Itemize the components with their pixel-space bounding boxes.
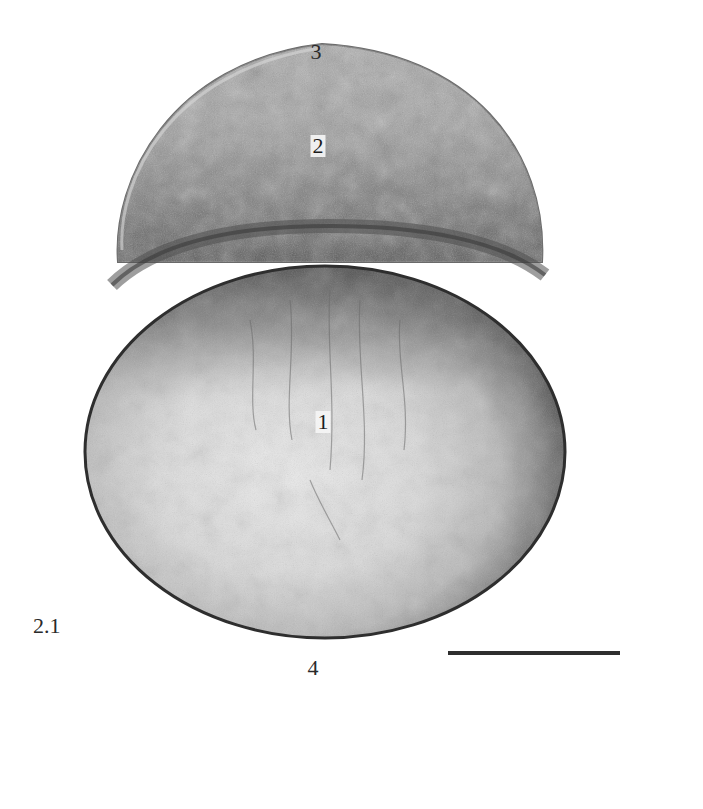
label-yolk-cell: 1 <box>316 411 331 433</box>
label-vegetal-pole: 4 <box>308 657 319 679</box>
blastoderm-cap <box>100 40 560 270</box>
label-blastoderm: 2 <box>311 135 326 157</box>
yolk-cell <box>80 260 570 640</box>
embryo-illustration <box>0 0 703 809</box>
micrograph-figure: 3 2 1 4 2.1 <box>0 0 703 809</box>
scale-bar <box>448 651 620 655</box>
label-animal-pole: 3 <box>311 41 322 63</box>
panel-label: 2.1 <box>33 615 61 637</box>
